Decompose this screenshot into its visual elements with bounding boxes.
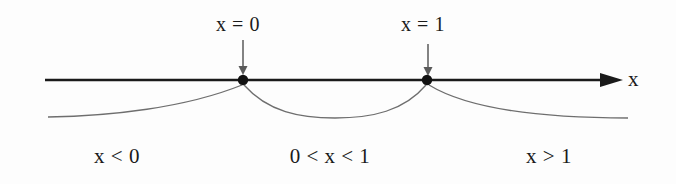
- point-marker-one: [422, 75, 432, 85]
- point-marker-zero: [238, 75, 248, 85]
- number-line-figure: x = 0 x = 1 x x < 0 0 < x < 1 x > 1: [0, 0, 676, 184]
- down-arrow-icon-zero: [239, 40, 248, 75]
- region-label-positive: x > 1: [479, 146, 619, 167]
- down-arrow-icon-one: [424, 44, 433, 76]
- point-label-zero: x = 0: [178, 14, 298, 34]
- point-label-one: x = 1: [363, 14, 483, 34]
- brace-curve-middle: [244, 85, 426, 118]
- region-label-negative: x < 0: [47, 146, 187, 167]
- axis-variable-label: x: [628, 69, 658, 90]
- axis-arrowhead-icon: [600, 73, 623, 87]
- region-label-middle: 0 < x < 1: [255, 146, 405, 167]
- brace-curve-negative: [48, 85, 242, 117]
- brace-curve-positive: [429, 85, 628, 118]
